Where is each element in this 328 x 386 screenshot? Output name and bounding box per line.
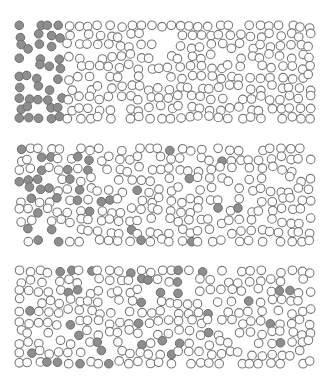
open-particle — [265, 50, 274, 59]
open-particle — [176, 63, 185, 72]
open-particle — [158, 114, 167, 123]
open-particle — [54, 166, 63, 175]
open-particle — [105, 215, 114, 224]
open-particle — [103, 165, 112, 174]
open-particle — [154, 193, 163, 202]
open-particle — [245, 163, 254, 172]
filled-particle — [22, 71, 31, 80]
open-particle — [236, 62, 245, 71]
open-particle — [306, 62, 315, 71]
open-particle — [174, 183, 183, 192]
open-particle — [237, 287, 246, 296]
open-particle — [226, 146, 235, 155]
filled-particle — [26, 307, 35, 316]
open-particle — [269, 206, 278, 215]
open-particle — [163, 63, 172, 72]
open-particle — [54, 309, 63, 318]
open-particle — [134, 357, 143, 366]
open-particle — [114, 217, 123, 226]
open-particle — [104, 92, 113, 101]
open-particle — [54, 348, 63, 357]
open-particle — [217, 74, 226, 83]
open-particle — [306, 214, 315, 223]
open-particle — [287, 319, 296, 328]
filled-particle — [85, 207, 94, 216]
filled-particle — [214, 204, 223, 213]
open-particle — [167, 73, 176, 82]
open-particle — [155, 185, 164, 194]
open-particle — [98, 207, 107, 216]
filled-particle — [276, 339, 285, 348]
filled-particle — [185, 174, 194, 183]
open-particle — [154, 206, 163, 215]
open-particle — [244, 307, 253, 316]
open-particle — [256, 317, 265, 326]
filled-particle — [47, 42, 56, 51]
open-particle — [276, 359, 285, 368]
open-particle — [193, 227, 202, 236]
open-particle — [166, 214, 175, 223]
open-particle — [56, 277, 65, 286]
open-particle — [196, 92, 205, 101]
open-particle — [268, 339, 277, 348]
open-particle — [135, 162, 144, 171]
open-particle — [76, 348, 85, 357]
open-particle — [43, 268, 52, 277]
open-particle — [267, 359, 276, 368]
open-particle — [228, 315, 237, 324]
open-particle — [305, 357, 314, 366]
open-particle — [276, 96, 285, 105]
open-particle — [75, 237, 84, 246]
open-particle — [15, 318, 24, 327]
open-particle — [278, 114, 287, 123]
open-particle — [65, 52, 74, 61]
open-particle — [304, 185, 313, 194]
open-particle — [185, 22, 194, 31]
open-particle — [86, 146, 95, 155]
open-particle — [294, 155, 303, 164]
open-particle — [135, 29, 144, 38]
open-particle — [218, 39, 227, 48]
open-particle — [177, 208, 186, 217]
open-particle — [193, 173, 202, 182]
open-particle — [204, 215, 213, 224]
open-particle — [213, 196, 222, 205]
open-particle — [224, 114, 233, 123]
open-particle — [17, 218, 26, 227]
open-particle — [15, 286, 24, 295]
open-particle — [296, 204, 305, 213]
open-particle — [295, 84, 304, 93]
filled-particle — [105, 359, 114, 368]
open-particle — [215, 83, 224, 92]
open-particle — [287, 41, 296, 50]
open-particle — [234, 146, 243, 155]
open-particle — [217, 236, 226, 245]
filled-particle — [54, 75, 63, 84]
open-particle — [165, 237, 174, 246]
open-particle — [258, 164, 267, 173]
open-particle — [26, 164, 35, 173]
open-particle — [208, 351, 217, 360]
open-particle — [228, 229, 237, 238]
open-particle — [147, 40, 156, 49]
open-particle — [53, 154, 62, 163]
open-particle — [118, 147, 127, 156]
open-particle — [287, 145, 296, 154]
open-particle — [185, 266, 194, 275]
open-particle — [63, 185, 72, 194]
open-particle — [43, 318, 52, 327]
open-particle — [126, 114, 135, 123]
open-particle — [176, 42, 185, 51]
open-particle — [207, 95, 216, 104]
open-particle — [94, 144, 103, 153]
open-particle — [193, 237, 202, 246]
open-particle — [173, 300, 182, 309]
filled-particle — [54, 237, 63, 246]
open-particle — [277, 152, 286, 161]
open-particle — [197, 359, 206, 368]
filled-particle — [158, 336, 167, 345]
open-particle — [288, 338, 297, 347]
open-particle — [104, 236, 113, 245]
open-particle — [117, 52, 126, 61]
open-particle — [133, 216, 142, 225]
